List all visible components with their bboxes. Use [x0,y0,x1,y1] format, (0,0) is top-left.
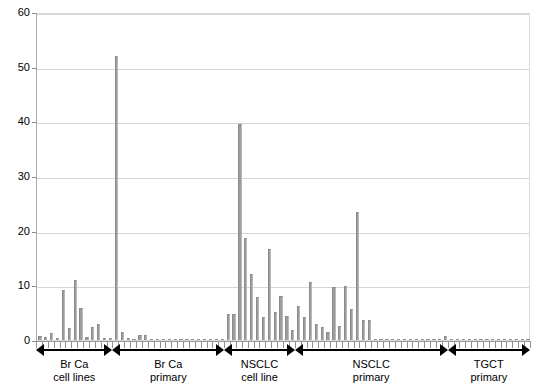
bar [56,338,59,340]
bar [362,320,365,340]
group-range-arrow [224,344,295,356]
arrow-right-icon [287,344,295,356]
arrow-left-icon [112,344,120,356]
arrow-left-icon [295,344,303,356]
bar [462,339,465,340]
bar [179,339,182,340]
group-label-line2: cell lines [36,371,112,384]
bar [356,212,359,340]
bar [350,309,353,340]
bar [268,249,271,340]
group-range-line [301,349,442,351]
bar [344,286,347,340]
bar [74,280,77,340]
bar [474,339,477,340]
bar [221,339,224,340]
arrow-right-icon [522,344,530,356]
group-label: TGCTprimary [448,358,530,383]
bar [526,339,529,340]
group-label: NSCLCcell line [224,358,295,383]
bar [403,339,406,340]
bar [285,316,288,340]
bar [115,56,118,340]
bar [321,327,324,340]
x-axis-group-labels: Br Cacell linesBr CaprimaryNSCLCcell lin… [0,344,538,386]
arrow-right-icon [216,344,224,356]
bar [103,338,106,340]
y-tick-label: 10 [2,279,30,291]
bar [315,324,318,340]
bar [138,335,141,340]
group-tgct-primary: TGCTprimary [448,344,530,383]
bar [203,339,206,340]
bar [191,339,194,340]
bar [426,339,429,340]
arrow-left-icon [224,344,232,356]
bar [68,328,71,340]
y-tick-label: 20 [2,225,30,237]
bar [297,306,300,340]
y-tick-label: 50 [2,61,30,73]
bar [368,320,371,340]
group-label-line2: primary [448,371,530,384]
group-range-arrow [36,344,112,356]
group-range-line [454,349,524,351]
arrow-left-icon [448,344,456,356]
group-label-line2: primary [295,371,448,384]
group-label-line1: Br Ca [112,358,224,371]
plot-area [36,13,530,341]
group-nsclc-primary: NSCLCprimary [295,344,448,383]
group-br-ca-primary: Br Caprimary [112,344,224,383]
bar [238,124,241,340]
bar [397,339,400,340]
group-br-ca-cell-lines: Br Cacell lines [36,344,112,383]
group-label: Br Caprimary [112,358,224,383]
group-label-line1: NSCLC [295,358,448,371]
group-range-line [230,349,289,351]
bar [456,339,459,340]
bar [174,339,177,340]
bar [421,339,424,340]
bar [250,274,253,340]
bar [385,339,388,340]
bar [168,339,171,340]
arrow-left-icon [36,344,44,356]
bar [509,339,512,340]
bar [62,290,65,340]
bar [479,339,482,340]
group-range-line [42,349,106,351]
group-label-line2: primary [112,371,224,384]
bar [79,308,82,340]
bar [50,333,53,340]
bar [197,339,200,340]
bar [227,314,230,340]
group-nsclc-cell-line: NSCLCcell line [224,344,295,383]
bar [144,335,147,340]
bar [244,238,247,340]
bar [232,314,235,340]
bar [432,339,435,340]
bar [415,339,418,340]
bar [444,336,447,340]
bar [332,287,335,340]
bar [150,339,153,340]
bar [274,312,277,340]
bar [485,339,488,340]
bar [326,332,329,340]
bar-series [37,14,529,340]
bar [91,327,94,340]
bar [379,339,382,340]
bar [97,324,100,340]
bar [209,339,212,340]
bar [438,339,441,340]
bar [515,339,518,340]
y-tick-label: 30 [2,170,30,182]
bar [162,339,165,340]
bar [309,282,312,340]
bar [262,317,265,341]
group-range-arrow [295,344,448,356]
bar [279,296,282,340]
group-range-arrow [448,344,530,356]
bar [85,337,88,340]
group-label-line1: TGCT [448,358,530,371]
